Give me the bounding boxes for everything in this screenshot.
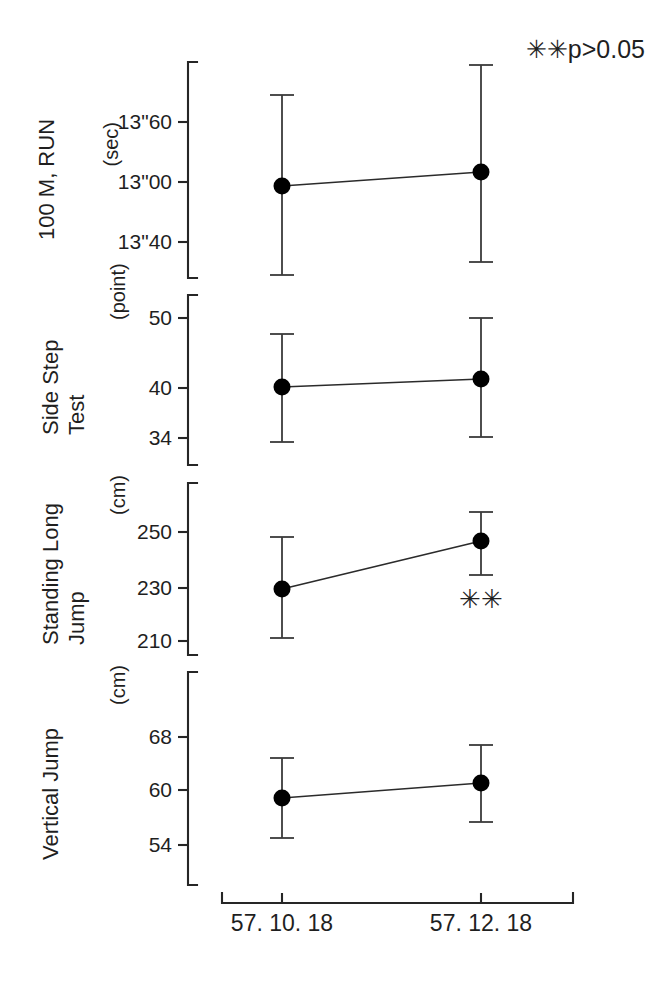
panel-3-data-point-1: [274, 581, 291, 598]
panel-4-title-line-1: Vertical Jump: [38, 728, 63, 860]
panel-3-y-axis-spine: [188, 483, 197, 655]
panel-2-data-point-2: [473, 371, 490, 388]
panel-2-series-line: [282, 379, 481, 387]
shared-x-axis: 57. 10. 18 57. 12. 18: [222, 893, 573, 936]
panel-4-series-line: [282, 783, 481, 798]
panel-3-data-point-2: [473, 533, 490, 550]
panel-4-tick-label-2: 60: [149, 778, 172, 801]
panel-1-data-point-1: [274, 178, 291, 195]
significance-note: ✳✳p>0.05: [526, 35, 645, 63]
panel-1-title-line-1: 100 M, RUN: [34, 119, 59, 240]
panel-4-unit-label: (cm): [107, 665, 129, 705]
panel-3-title-line-2: Jump: [64, 591, 89, 645]
panel-1-tick-label-3: 13"40: [118, 230, 172, 253]
panel-1-series-line: [282, 172, 481, 186]
panel-1-tick-label-1: 13"60: [118, 110, 172, 133]
panel-standing-long-jump: 250 230 210 (cm) Standing Long Jump ✳✳: [38, 475, 503, 655]
panel-2-tick-label-1: 50: [149, 306, 172, 329]
panel-vertical-jump: 68 60 54 (cm) Vertical Jump: [38, 665, 493, 885]
panel-4-data-point-1: [274, 790, 291, 807]
panel-2-data-point-1: [274, 379, 291, 396]
panel-3-tick-label-2: 230: [137, 576, 172, 599]
panel-4-data-point-2: [473, 775, 490, 792]
panel-3-unit-label: (cm): [107, 475, 129, 515]
panel-1-y-axis-spine: [188, 62, 197, 278]
panel-3-tick-label-1: 250: [137, 520, 172, 543]
panel-3-tick-label-3: 210: [137, 629, 172, 652]
panel-2-title-line-2: Test: [64, 395, 89, 435]
panel-1-unit-label: (sec): [100, 122, 122, 166]
panel-2-tick-label-3: 34: [149, 426, 173, 449]
figure-container: 13"60 13"00 13"40 (sec) 100 M, RUN 50: [0, 0, 661, 989]
panel-4-tick-label-1: 68: [149, 725, 172, 748]
panel-side-step-test: 50 40 34 (point) Side Step Test: [38, 263, 493, 465]
x-axis-spine: [222, 893, 573, 903]
multi-panel-error-bar-chart: 13"60 13"00 13"40 (sec) 100 M, RUN 50: [0, 0, 661, 989]
panel-3-title-line-1: Standing Long: [38, 503, 63, 645]
panel-3-series-line: [282, 541, 481, 589]
panel-2-y-axis-spine: [188, 295, 197, 465]
panel-1-tick-label-2: 13"00: [118, 170, 172, 193]
panel-2-tick-label-2: 40: [149, 376, 172, 399]
panel-1-data-point-2: [473, 164, 490, 181]
panel-4-y-axis-spine: [188, 672, 197, 885]
panel-100m-run: 13"60 13"00 13"40 (sec) 100 M, RUN: [34, 62, 493, 278]
panel-4-tick-label-3: 54: [149, 833, 173, 856]
panel-2-title-line-1: Side Step: [38, 340, 63, 435]
panel-3-significance-marker: ✳✳: [459, 584, 503, 614]
x-axis-tick-label-2: 57. 12. 18: [430, 910, 532, 936]
panel-2-unit-label: (point): [107, 263, 129, 320]
x-axis-tick-label-1: 57. 10. 18: [231, 910, 333, 936]
